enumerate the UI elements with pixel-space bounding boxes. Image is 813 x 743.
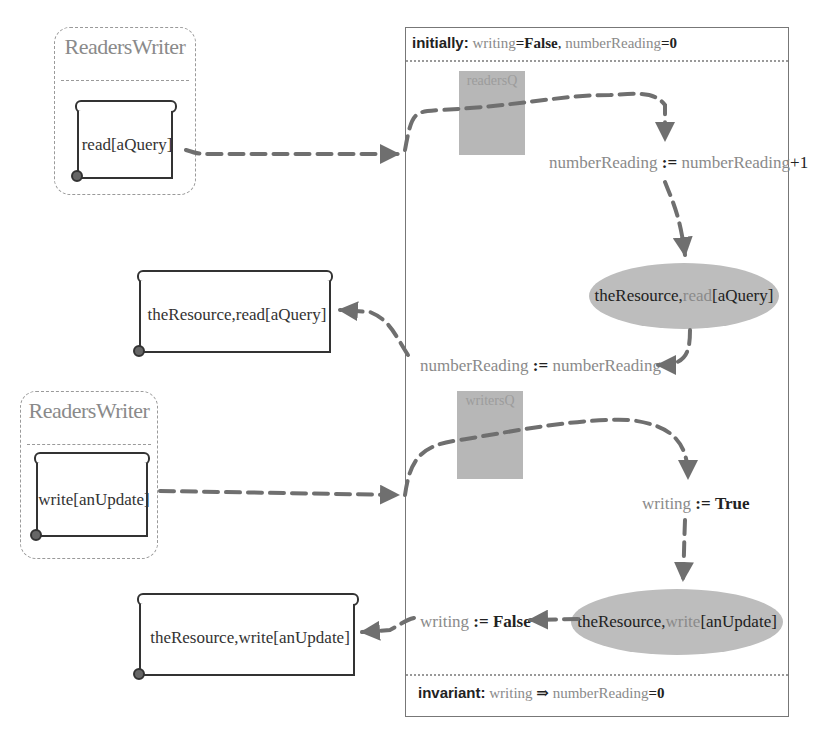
arrow-to-read-action [665,182,685,255]
arrow-read-request [186,150,398,154]
arrow-read-done [658,330,690,365]
arrow-write-request [160,491,398,495]
arrow-write-done [530,619,578,620]
arrow-write-enter-queue [405,420,688,495]
arrow-to-write-action [683,520,685,580]
arrow-read-response [340,310,408,355]
arrow-read-enter-queue [405,94,665,150]
flow-arrows [0,0,813,743]
arrow-write-response [362,618,414,632]
